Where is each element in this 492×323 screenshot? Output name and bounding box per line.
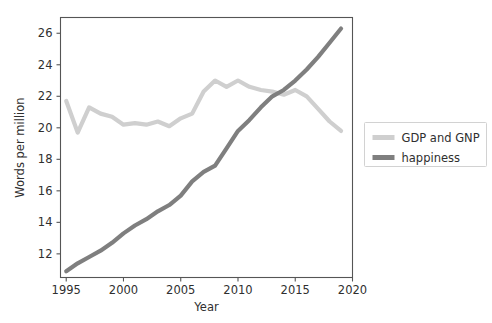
y-tick-label: 14 bbox=[38, 215, 53, 229]
x-tick-label: 2005 bbox=[166, 283, 195, 297]
x-tick-label: 2015 bbox=[281, 283, 310, 297]
plot-frame bbox=[61, 18, 353, 278]
y-tick-label: 18 bbox=[38, 152, 53, 166]
legend-label-gdp-and-gnp[interactable]: GDP and GNP bbox=[402, 131, 480, 145]
x-tick-label: 2010 bbox=[223, 283, 252, 297]
y-tick-label: 22 bbox=[38, 89, 53, 103]
figure-canvas: 1995200020052010201520201214161820222426… bbox=[0, 0, 492, 323]
legend-label-happiness[interactable]: happiness bbox=[402, 151, 460, 165]
y-tick-label: 26 bbox=[38, 26, 53, 40]
x-axis-title: Year bbox=[193, 300, 219, 314]
series-line-happiness bbox=[66, 29, 341, 272]
plot-series bbox=[66, 29, 341, 272]
y-tick-label: 16 bbox=[38, 184, 53, 198]
series-line-gdp-and-gnp bbox=[66, 81, 341, 133]
line-chart: 1995200020052010201520201214161820222426… bbox=[0, 0, 492, 323]
chart-legend[interactable]: GDP and GNPhappiness bbox=[365, 123, 487, 167]
x-tick-label: 1995 bbox=[52, 283, 81, 297]
y-tick-label: 12 bbox=[38, 247, 53, 261]
y-axis-title: Words per million bbox=[13, 97, 27, 197]
plot-axes bbox=[57, 18, 353, 282]
y-tick-label: 24 bbox=[38, 58, 53, 72]
x-tick-label: 2000 bbox=[109, 283, 138, 297]
y-tick-label: 20 bbox=[38, 121, 53, 135]
x-tick-label: 2020 bbox=[338, 283, 367, 297]
